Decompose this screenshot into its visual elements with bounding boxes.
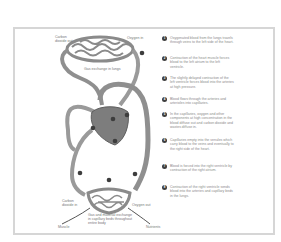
heart bbox=[91, 107, 128, 145]
step-5: 5 In the capillaries, oxygen and other c… bbox=[162, 112, 234, 138]
step-7: 7 Blood is forced into the right ventric… bbox=[162, 164, 234, 185]
muscle-line bbox=[62, 208, 90, 224]
label-muscle: Muscle bbox=[58, 225, 69, 229]
step-text: Contraction of the heart muscle forces b… bbox=[170, 56, 229, 69]
step-badge: 3 bbox=[162, 76, 167, 81]
label-lung-exchange: Gas exchange in lungs bbox=[84, 67, 121, 71]
label-o2-in: Oxygen in bbox=[127, 36, 143, 40]
step-text: In the capillaries, oxygen and other com… bbox=[170, 112, 233, 129]
lung-capillary-bed bbox=[67, 37, 133, 61]
step-4: 4 Blood flows through the arteries and a… bbox=[162, 97, 234, 112]
step-badge: 6 bbox=[162, 138, 167, 143]
step-badge: 7 bbox=[162, 164, 167, 169]
step-text: Contraction of the right ventricle sends… bbox=[170, 185, 233, 198]
step-badge: 4 bbox=[162, 97, 167, 102]
label-nutrients: Nutrients bbox=[146, 225, 160, 229]
step-2: 2 Contraction of the heart muscle forces… bbox=[162, 56, 234, 76]
label-co2-out: Carbon dioxide out bbox=[55, 35, 75, 43]
step-badge: 1 bbox=[162, 36, 167, 41]
label-co2-in: Carbon dioxide in bbox=[62, 199, 84, 207]
step-text: Oxygenated blood from the lungs travels … bbox=[170, 36, 233, 44]
step-text: Capillaries empty into the venules which… bbox=[170, 138, 234, 151]
step-text: The slightly delayed contraction of the … bbox=[170, 76, 234, 89]
label-o2-out: Oxygen out bbox=[132, 203, 150, 207]
label-body-exchange: Gas and material exchange in capillary b… bbox=[88, 213, 134, 226]
step-badge: 5 bbox=[162, 112, 167, 117]
step-6: 6 Capillaries empty into the venules whi… bbox=[162, 138, 234, 164]
step-badge: 2 bbox=[162, 56, 167, 61]
step-3: 3 The slightly delayed contraction of th… bbox=[162, 76, 234, 97]
body-capillary-bed bbox=[88, 189, 130, 213]
step-1: 1 Oxygenated blood from the lungs travel… bbox=[162, 36, 234, 56]
vena-cava bbox=[72, 130, 92, 195]
step-text: Blood flows through the arteries and art… bbox=[170, 97, 226, 105]
step-badge: 8 bbox=[162, 185, 167, 190]
steps-list: 1 Oxygenated blood from the lungs travel… bbox=[162, 36, 234, 203]
step-text: Blood is forced into the right ventricle… bbox=[170, 164, 232, 172]
step-8: 8 Contraction of the right ventricle sen… bbox=[162, 185, 234, 203]
